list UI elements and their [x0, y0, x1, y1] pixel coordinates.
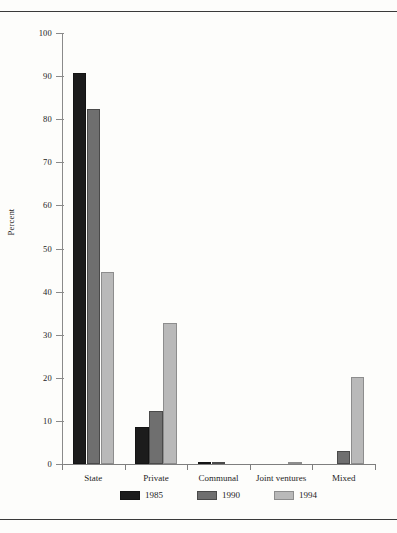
bar-state-1994 — [101, 272, 115, 464]
x-axis-label-state: State — [62, 473, 125, 483]
x-axis-tick — [312, 464, 313, 470]
bar-communal-1985 — [198, 462, 212, 464]
y-axis-tick-label: 30 — [12, 331, 52, 340]
x-axis-tick — [375, 464, 376, 470]
legend-item-1990: 1990 — [197, 491, 240, 500]
chart-legend: 198519901994 — [62, 491, 375, 500]
bar-mixed-1994 — [351, 377, 365, 464]
bar-private-1990 — [149, 411, 163, 464]
x-axis-tick — [125, 464, 126, 470]
x-axis-tick — [250, 464, 251, 470]
x-axis-label-mixed: Mixed — [312, 473, 375, 483]
legend-label-1994: 1994 — [299, 491, 317, 500]
y-axis-tick-label: 60 — [12, 201, 52, 210]
x-axis-label-joint-ventures: Joint ventures — [250, 473, 313, 483]
bar-joint-ventures-1994 — [288, 462, 302, 464]
legend-label-1985: 1985 — [145, 491, 163, 500]
plot-area — [62, 33, 375, 464]
x-axis-label-communal: Communal — [187, 473, 250, 483]
x-axis-tick — [187, 464, 188, 470]
legend-label-1990: 1990 — [222, 491, 240, 500]
bar-state-1985 — [73, 73, 87, 464]
bar-private-1994 — [163, 323, 177, 464]
y-axis-tick-label: 0 — [12, 460, 52, 469]
bar-communal-1990 — [212, 462, 226, 464]
legend-item-1985: 1985 — [120, 491, 163, 500]
legend-item-1994: 1994 — [274, 491, 317, 500]
x-axis-line — [62, 464, 375, 465]
bar-chart-figure: Percent 0102030405060708090100 StatePriv… — [0, 12, 397, 518]
bar-mixed-1990 — [337, 451, 351, 464]
y-axis-tick-label: 10 — [12, 417, 52, 426]
legend-swatch-1985 — [120, 491, 140, 500]
legend-swatch-1994 — [274, 491, 294, 500]
bar-private-1985 — [135, 427, 149, 464]
y-axis-title: Percent — [6, 147, 16, 297]
y-axis-tick-label: 40 — [12, 288, 52, 297]
y-axis-tick-label: 80 — [12, 115, 52, 124]
x-axis-label-private: Private — [125, 473, 188, 483]
y-axis-tick-label: 50 — [12, 245, 52, 254]
y-axis-tick-label: 90 — [12, 72, 52, 81]
bar-state-1990 — [87, 109, 101, 464]
x-axis-tick — [62, 464, 63, 470]
page-bottom-rule — [0, 519, 397, 520]
y-axis-tick-label: 20 — [12, 374, 52, 383]
y-axis-tick-label: 100 — [12, 29, 52, 38]
legend-swatch-1990 — [197, 491, 217, 500]
y-axis-tick-label: 70 — [12, 158, 52, 167]
